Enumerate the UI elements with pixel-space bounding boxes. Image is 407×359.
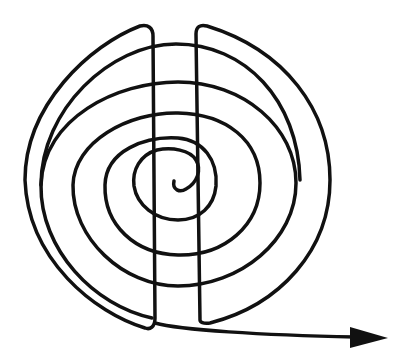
exit-arrow-line [155,323,355,337]
arrow-head-icon [350,327,388,348]
spiral-diagram [0,0,407,359]
diagram-svg [0,0,407,359]
spiral [41,82,296,318]
